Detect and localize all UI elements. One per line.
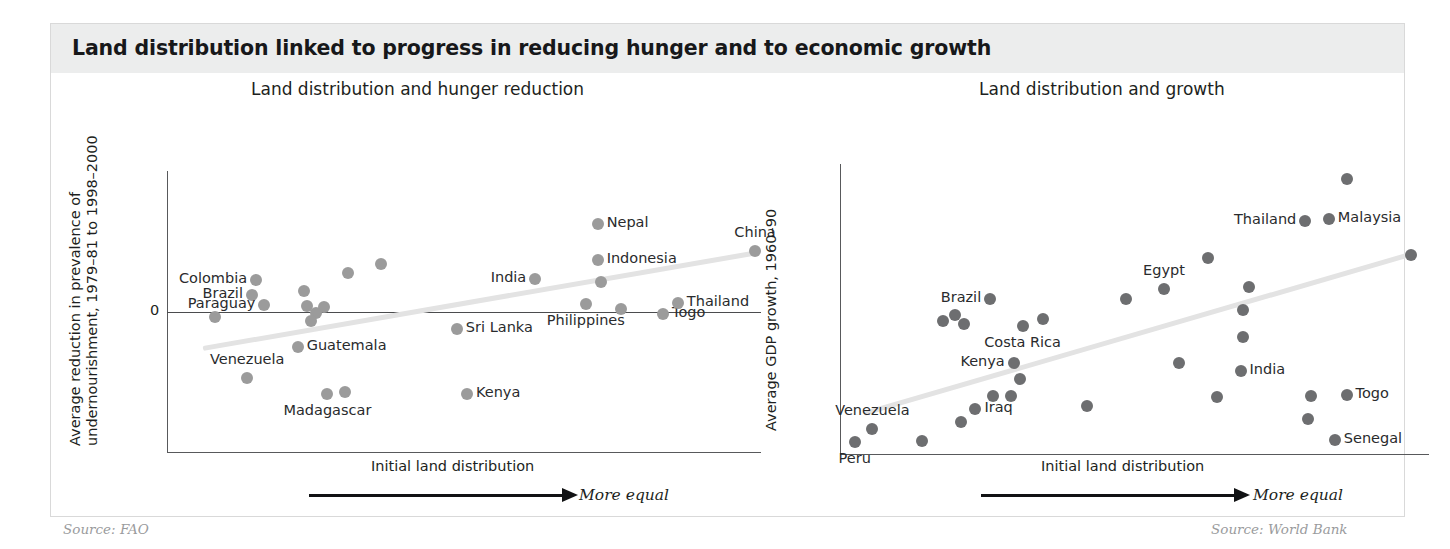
data-point [339,386,351,398]
point-label: Paraguay [188,295,256,311]
data-point [615,303,627,315]
point-label: Sri Lanka [466,319,533,335]
data-point [987,390,999,402]
figure-title: Land distribution linked to progress in … [72,36,991,60]
data-point [1037,313,1049,325]
point-label: Venezuela [835,402,909,418]
data-point [1008,357,1020,369]
data-point [1237,331,1249,343]
source-note-right: Source: World Bank [1211,521,1348,537]
point-label: Guatemala [307,337,387,353]
point-label: India [1250,361,1286,377]
point-label: Philippines [547,312,625,328]
data-point [1014,373,1026,385]
y-axis-label-right: Average GDP growth, 1960–90 [763,209,779,431]
data-point [258,299,270,311]
data-point [342,267,354,279]
point-label: Thailand [687,293,749,309]
point-label: Venezuela [210,351,284,367]
data-point [1237,304,1249,316]
data-point [1305,390,1317,402]
data-point [1005,390,1017,402]
point-label: Malaysia [1338,209,1401,225]
x-axis-title-left: Initial land distribution [371,458,534,474]
data-point [595,276,607,288]
plot-area-right: PeruVenezuelaIraqKenyaCosta RicaBrazilEg… [840,164,1429,454]
data-point [1158,283,1170,295]
data-point [250,274,262,286]
data-point [955,416,967,428]
point-label: Kenya [476,384,520,400]
data-point [1081,400,1093,412]
data-point [984,293,996,305]
data-point [375,258,387,270]
data-point [958,318,970,330]
data-point [592,254,604,266]
data-point [1405,249,1417,261]
data-point [672,297,684,309]
chart-title-left: Land distribution and hunger reduction [251,79,584,99]
point-label: Thailand [1234,211,1296,227]
data-point [849,436,861,448]
data-point [241,372,253,384]
data-point [1323,213,1335,225]
data-point [1341,173,1353,185]
data-point [451,323,463,335]
plot-area-left: 0ColombiaBrazilParaguayGuatemalaVenezuel… [167,171,761,452]
chart-panel-growth: Land distribution and growth Average GDP… [741,73,1404,516]
data-point [1017,320,1029,332]
point-label: Madagascar [283,402,371,418]
data-point [461,388,473,400]
x-axis-title-right: Initial land distribution [1041,458,1204,474]
y-tick-label-zero: 0 [150,302,159,318]
data-point [1302,413,1314,425]
data-point [657,308,669,320]
point-label: India [491,269,527,285]
y-axis-label-left-line1: Average reduction in prevalence of [67,135,84,446]
data-point [1329,434,1341,446]
chart-panel-hunger: Land distribution and hunger reduction A… [51,73,741,516]
point-label: Kenya [960,353,1004,369]
figure-frame: Land distribution linked to progress in … [50,23,1405,517]
point-label: Peru [839,450,871,466]
point-label: Colombia [179,270,247,286]
data-point [937,315,949,327]
point-label: Nepal [607,214,649,230]
data-point [580,298,592,310]
point-label: Togo [1356,385,1389,401]
data-point [1211,391,1223,403]
x-axis-line-right [840,454,1429,455]
y-axis-label-left-line2: undernourishment, 1979–81 to 1998–2000 [84,135,101,446]
data-point [1243,281,1255,293]
x-axis-line-left [167,452,761,453]
data-point [592,218,604,230]
more-equal-label-right: More equal [1253,486,1343,504]
point-label: Indonesia [607,250,677,266]
y-axis-label-left: Average reduction in prevalence of under… [67,135,101,446]
point-label: Senegal [1344,430,1402,446]
figure-root: Land distribution linked to progress in … [0,0,1450,549]
trendline-right [863,251,1412,415]
point-label: Costa Rica [984,334,1061,350]
data-point [209,311,221,323]
more-equal-label-left: More equal [579,486,669,504]
data-point [529,273,541,285]
data-point [298,285,310,297]
figure-title-band: Land distribution linked to progress in … [51,24,1404,73]
data-point [969,403,981,415]
data-point [1341,389,1353,401]
data-point [321,388,333,400]
data-point [1299,215,1311,227]
chart-title-right: Land distribution and growth [979,79,1225,99]
data-point [1202,252,1214,264]
data-point [1173,357,1185,369]
point-label: Egypt [1143,262,1185,278]
data-point [1235,365,1247,377]
point-label: Brazil [941,289,981,305]
data-point [916,435,928,447]
source-note-left: Source: FAO [63,521,149,537]
data-point [305,315,317,327]
data-point [292,341,304,353]
data-point [866,423,878,435]
data-point [1120,293,1132,305]
